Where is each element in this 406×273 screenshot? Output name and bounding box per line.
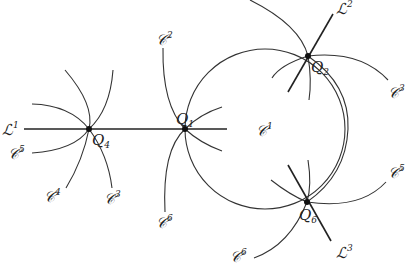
arc-c6-q1 <box>165 129 185 212</box>
arc-q6-right-big <box>307 129 348 202</box>
label-c6-q6: 𝒞6 <box>230 247 247 266</box>
label-c4-q4: 𝒞4 <box>44 187 61 206</box>
label-l2: ℒ2 <box>336 0 353 18</box>
label-c5-q4: 𝒞5 <box>8 144 25 163</box>
arc-q1-lower-right <box>185 129 222 151</box>
arc-q4-upper-right <box>89 70 113 129</box>
label-c1: 𝒞1 <box>256 121 273 140</box>
point-q6 <box>304 199 310 205</box>
label-l1: ℒ1 <box>2 120 19 139</box>
label-c3-q2: 𝒞3 <box>388 83 405 102</box>
label-q6: Q6 <box>299 206 317 225</box>
label-c5-q6: 𝒞5 <box>388 163 405 182</box>
label-q4: Q4 <box>92 131 110 150</box>
label-q1: Q1 <box>176 110 194 129</box>
label-q2: Q2 <box>311 58 329 77</box>
arc-q6-left <box>271 180 307 202</box>
arc-c5-q4 <box>32 129 89 153</box>
label-l3: ℒ3 <box>336 243 353 262</box>
arc-q2-top <box>250 0 308 56</box>
diagram-canvas: Q4 Q1 Q2 Q6 ℒ1 ℒ2 ℒ3 𝒞1 𝒞2 𝒞6 𝒞5 𝒞4 𝒞3 𝒞… <box>0 0 406 273</box>
label-c6-q1: 𝒞6 <box>156 213 173 232</box>
arc-q4-upper-left <box>32 104 89 129</box>
label-c3-q4: 𝒞3 <box>104 189 121 208</box>
label-c2-q1: 𝒞2 <box>156 30 173 49</box>
